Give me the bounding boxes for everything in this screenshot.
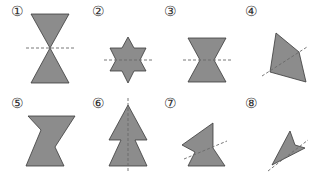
figure-label: ⑦ xyxy=(164,95,177,111)
figure-6: ⑥ xyxy=(92,95,147,173)
figure-shape xyxy=(26,116,75,166)
figure-label: ⑤ xyxy=(11,95,24,111)
figure-5: ⑤ xyxy=(11,95,75,166)
figure-2: ② xyxy=(92,3,152,83)
figure-label: ① xyxy=(11,3,24,19)
figure-label: ② xyxy=(92,3,105,19)
figure-8: ⑧ xyxy=(245,95,308,171)
figure-shape xyxy=(31,14,69,83)
figure-label: ④ xyxy=(245,3,258,19)
figure-shape xyxy=(270,33,306,82)
figure-3: ③ xyxy=(164,3,231,82)
figure-shape xyxy=(272,131,305,165)
figure-label: ⑧ xyxy=(245,95,258,111)
figure-label: ③ xyxy=(164,3,177,19)
figure-4: ④ xyxy=(245,3,307,82)
figure-7: ⑦ xyxy=(164,95,227,166)
figure-label: ⑥ xyxy=(92,95,105,111)
figure-1: ① xyxy=(11,3,74,83)
symmetry-figures-diagram: ①②③④⑤⑥⑦⑧ xyxy=(0,0,315,176)
